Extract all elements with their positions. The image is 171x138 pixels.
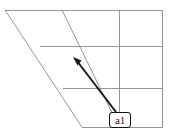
callout-label-box[interactable]: a1 xyxy=(109,112,131,128)
grid-vertical-lines xyxy=(120,10,163,127)
grid-diagram xyxy=(0,0,171,138)
grid-horizontal-lines xyxy=(5,10,163,127)
callout-label-text: a1 xyxy=(115,115,125,126)
pointer-arrow xyxy=(73,57,116,112)
grid-slanted-lines xyxy=(5,10,119,127)
arrow-shaft xyxy=(77,61,116,112)
diagram-canvas: a1 xyxy=(0,0,171,138)
